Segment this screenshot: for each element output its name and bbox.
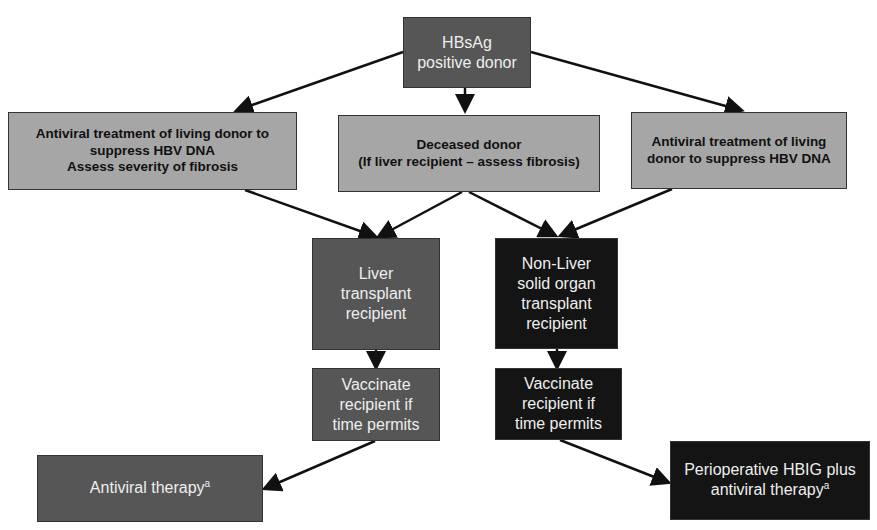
node-label: Vaccinate recipient if time permits: [332, 375, 419, 435]
node-label: Antiviral treatment of living donor to s…: [36, 126, 269, 177]
node-hbig-antiviral: Perioperative HBIG plus antiviral therap…: [670, 441, 870, 520]
node-antiviral-therapy: Antiviral therapya: [37, 455, 263, 522]
node-label: Perioperative HBIG plus antiviral therap…: [684, 460, 856, 500]
node-living-donor-left: Antiviral treatment of living donor to s…: [8, 112, 297, 190]
node-vaccinate-left: Vaccinate recipient if time permits: [312, 368, 440, 441]
node-deceased-donor: Deceased donor (If liver recipient – ass…: [338, 115, 600, 192]
node-label: Non-Liver solid organ transplant recipie…: [517, 254, 595, 334]
node-label: Liver transplant recipient: [341, 264, 411, 324]
node-label: Deceased donor (If liver recipient – ass…: [358, 137, 579, 171]
node-label: Vaccinate recipient if time permits: [515, 374, 602, 434]
node-label: HBsAg positive donor: [417, 33, 517, 73]
node-liver-transplant-recipient: Liver transplant recipient: [312, 238, 440, 350]
node-label: Antiviral treatment of living donor to s…: [647, 134, 831, 168]
node-label: Antiviral therapya: [90, 478, 210, 498]
node-nonliver-transplant-recipient: Non-Liver solid organ transplant recipie…: [495, 238, 618, 349]
node-living-donor-right: Antiviral treatment of living donor to s…: [631, 112, 847, 189]
node-vaccinate-right: Vaccinate recipient if time permits: [495, 368, 622, 440]
node-hbsag-positive-donor: HBsAg positive donor: [403, 17, 531, 88]
